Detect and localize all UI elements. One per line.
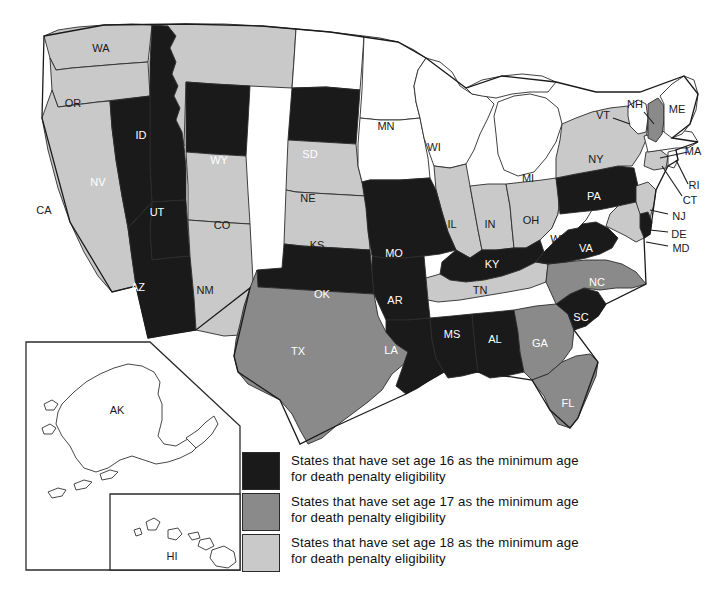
- legend: States that have set age 16 as the minim…: [242, 452, 662, 575]
- hawaii-niihau: [134, 528, 142, 536]
- state-label-NC: NC: [589, 276, 605, 288]
- leader-line-CT: [662, 166, 682, 196]
- state-label-NY: NY: [588, 153, 604, 165]
- state-label-LA: LA: [384, 344, 398, 356]
- leader-line-MD: [646, 242, 668, 246]
- leader-line-DE: [650, 230, 668, 232]
- state-label-AZ: AZ: [131, 281, 145, 293]
- state-label-PA: PA: [587, 190, 602, 202]
- legend-label-age16-line1: States that have set age 16 as the minim…: [291, 453, 579, 469]
- state-label-TN: TN: [473, 284, 488, 296]
- legend-label-age17-line2: for death penalty eligibility: [291, 510, 579, 526]
- state-label-SC: SC: [573, 311, 588, 323]
- legend-swatch-age18: [242, 534, 280, 572]
- legend-label-age16: States that have set age 16 as the minim…: [291, 452, 579, 484]
- state-label-OH: OH: [523, 214, 540, 226]
- legend-swatch-age16: [242, 452, 280, 490]
- state-label-MT: MT: [205, 83, 221, 95]
- state-label-DE: DE: [671, 228, 686, 240]
- state-label-AR: AR: [387, 294, 402, 306]
- state-label-FL: FL: [562, 397, 575, 409]
- state-label-SD: SD: [302, 148, 317, 160]
- leader-line-RI: [676, 160, 688, 184]
- state-label-MS: MS: [444, 328, 461, 340]
- state-label-TX: TX: [291, 345, 306, 357]
- state-label-AL: AL: [488, 333, 501, 345]
- state-label-AK: AK: [110, 404, 125, 416]
- state-label-ND: ND: [308, 99, 324, 111]
- state-label-MN: MN: [377, 120, 394, 132]
- state-label-MO: MO: [385, 247, 403, 259]
- state-label-MD: MD: [672, 242, 689, 254]
- us-death-penalty-age-map: WA OR CA ID NV UT AZ MT WY CO NM ND SD N…: [0, 0, 706, 594]
- state-label-GA: GA: [532, 337, 549, 349]
- state-SD[interactable]: [288, 87, 360, 144]
- state-ND[interactable]: [292, 29, 364, 90]
- state-label-VT: VT: [596, 109, 610, 121]
- state-NE[interactable]: [286, 140, 366, 196]
- legend-label-age18-line1: States that have set age 18 as the minim…: [291, 535, 579, 551]
- legend-label-age17: States that have set age 17 as the minim…: [291, 493, 579, 525]
- state-CT[interactable]: [644, 150, 668, 170]
- state-label-HI: HI: [167, 550, 178, 562]
- state-label-CA: CA: [36, 204, 52, 216]
- state-label-WY: WY: [210, 154, 228, 166]
- state-MI[interactable]: [494, 94, 562, 176]
- state-OK[interactable]: [257, 244, 374, 294]
- state-label-WA: WA: [92, 42, 110, 54]
- state-KS[interactable]: [284, 190, 370, 250]
- state-AR[interactable]: [372, 256, 430, 320]
- state-label-CO: CO: [214, 219, 231, 231]
- state-label-KS: KS: [310, 239, 325, 251]
- state-label-WI: WI: [427, 141, 440, 153]
- state-label-OK: OK: [314, 288, 331, 300]
- state-label-NJ: NJ: [672, 210, 685, 222]
- state-label-IN: IN: [485, 218, 496, 230]
- legend-swatch-age17: [242, 493, 280, 531]
- state-label-IA: IA: [377, 186, 388, 198]
- state-label-MI: MI: [522, 172, 534, 184]
- legend-label-age17-line1: States that have set age 17 as the minim…: [291, 494, 579, 510]
- state-label-OR: OR: [65, 97, 82, 109]
- state-label-IL: IL: [447, 218, 456, 230]
- state-label-UT: UT: [150, 206, 165, 218]
- state-label-NH: NH: [627, 98, 643, 110]
- legend-label-age18: States that have set age 18 as the minim…: [291, 534, 579, 566]
- state-label-NV: NV: [90, 176, 106, 188]
- state-label-MA: MA: [685, 145, 702, 157]
- legend-item-age16[interactable]: States that have set age 16 as the minim…: [242, 452, 662, 490]
- state-label-NE: NE: [300, 192, 315, 204]
- state-label-WV: WV: [550, 233, 568, 245]
- state-label-NM: NM: [196, 284, 213, 296]
- state-label-ME: ME: [669, 103, 686, 115]
- state-label-ID: ID: [136, 129, 147, 141]
- legend-label-age18-line2: for death penalty eligibility: [291, 551, 579, 567]
- state-label-VA: VA: [579, 242, 594, 254]
- state-label-CT: CT: [683, 194, 698, 206]
- legend-item-age17[interactable]: States that have set age 17 as the minim…: [242, 493, 662, 531]
- legend-label-age16-line2: for death penalty eligibility: [291, 469, 579, 485]
- state-label-KY: KY: [485, 258, 500, 270]
- state-label-RI: RI: [689, 179, 700, 191]
- legend-item-age18[interactable]: States that have set age 18 as the minim…: [242, 534, 662, 572]
